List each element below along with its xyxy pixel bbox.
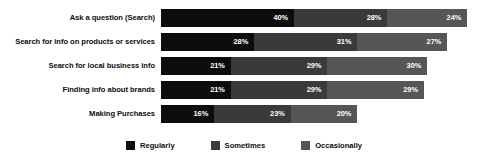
segment-value-label: 27%	[427, 33, 448, 51]
category-label: Finding info about brands	[0, 81, 161, 99]
segment-value-label: 31%	[337, 33, 358, 51]
segment-value-label: 30%	[407, 57, 428, 75]
segment-value-label: 28%	[367, 9, 388, 27]
stacked-bar: 40%28%24%	[161, 9, 467, 27]
category-label: Search for info on products or services	[0, 33, 161, 51]
segment-value-label: 29%	[307, 57, 328, 75]
legend-label: Sometimes	[225, 141, 266, 150]
segment-value-label: 40%	[273, 9, 294, 27]
category-label: Search for local business info	[0, 57, 161, 75]
segment-value-label: 28%	[233, 33, 254, 51]
segment-value-label: 20%	[337, 105, 358, 123]
legend-swatch-icon	[211, 141, 220, 150]
segment-value-label: 16%	[193, 105, 214, 123]
bar-segment-regularly: 16%	[161, 105, 214, 123]
stacked-bar: 28%31%27%	[161, 33, 447, 51]
stacked-bar: 16%23%20%	[161, 105, 357, 123]
segment-value-label: 29%	[307, 81, 328, 99]
legend-label: Regularly	[140, 141, 175, 150]
segment-value-label: 24%	[447, 9, 468, 27]
bar-segment-occasionally: 29%	[327, 81, 424, 99]
bar-segment-regularly: 40%	[161, 9, 294, 27]
legend-swatch-icon	[126, 141, 135, 150]
legend-swatch-icon	[301, 141, 310, 150]
chart-legend: RegularlySometimesOccasionally	[0, 141, 488, 150]
segment-value-label: 21%	[210, 81, 231, 99]
stacked-bar: 21%29%29%	[161, 81, 424, 99]
category-label: Making Purchases	[0, 105, 161, 123]
bar-segment-sometimes: 23%	[214, 105, 291, 123]
chart-plot-area: Ask a question (Search)40%28%24%Search f…	[0, 9, 488, 129]
stacked-bar: 21%29%30%	[161, 57, 427, 75]
bar-segment-occasionally: 27%	[357, 33, 447, 51]
bar-segment-occasionally: 24%	[387, 9, 467, 27]
bar-segment-regularly: 21%	[161, 57, 231, 75]
bar-segment-sometimes: 29%	[231, 81, 328, 99]
segment-value-label: 23%	[270, 105, 291, 123]
bar-segment-regularly: 28%	[161, 33, 254, 51]
segment-value-label: 29%	[403, 81, 424, 99]
bar-segment-regularly: 21%	[161, 81, 231, 99]
bar-segment-sometimes: 28%	[294, 9, 387, 27]
chart-row: Ask a question (Search)40%28%24%	[0, 9, 488, 27]
chart-row: Making Purchases16%23%20%	[0, 105, 488, 123]
bar-segment-sometimes: 29%	[231, 57, 328, 75]
bar-segment-sometimes: 31%	[254, 33, 357, 51]
legend-item-regularly[interactable]: Regularly	[126, 141, 175, 150]
legend-item-occasionally[interactable]: Occasionally	[301, 141, 362, 150]
bar-segment-occasionally: 30%	[327, 57, 427, 75]
segment-value-label: 21%	[210, 57, 231, 75]
chart-row: Search for local business info21%29%30%	[0, 57, 488, 75]
bar-segment-occasionally: 20%	[291, 105, 358, 123]
stacked-bar-chart: Ask a question (Search)40%28%24%Search f…	[0, 0, 488, 166]
legend-label: Occasionally	[315, 141, 362, 150]
chart-row: Search for info on products or services2…	[0, 33, 488, 51]
chart-row: Finding info about brands21%29%29%	[0, 81, 488, 99]
legend-item-sometimes[interactable]: Sometimes	[211, 141, 266, 150]
category-label: Ask a question (Search)	[0, 9, 161, 27]
